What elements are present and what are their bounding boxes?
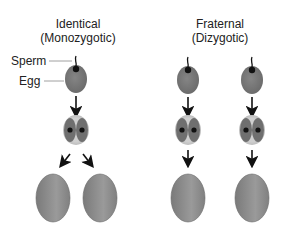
identical-embryo-1 bbox=[36, 174, 70, 222]
fraternal-egg-1 bbox=[177, 57, 199, 94]
sperm-tail bbox=[75, 56, 76, 66]
fraternal-embryo-1 bbox=[171, 174, 205, 222]
twins-diagram bbox=[0, 0, 285, 237]
fraternal-egg-2 bbox=[241, 57, 263, 94]
identical-arrow-left bbox=[63, 154, 70, 163]
identical-embryo-2 bbox=[83, 174, 117, 222]
identical-zygote bbox=[63, 115, 89, 145]
identical-arrow-right bbox=[83, 154, 90, 163]
fraternal-zygote-2 bbox=[239, 115, 265, 145]
fraternal-zygote-1 bbox=[175, 115, 201, 145]
identical-egg bbox=[65, 56, 87, 93]
fraternal-embryo-2 bbox=[235, 174, 269, 222]
